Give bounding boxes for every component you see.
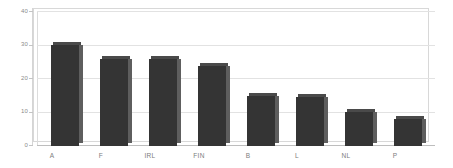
y-tick-label-30: 30 [4,41,28,48]
x-tick-label-F: F [81,152,121,160]
plot-area [33,8,435,148]
bar-top-A [53,42,81,45]
bar-side-FIN [226,66,230,143]
bar-chart: 40 30 20 10 0 [0,0,453,168]
bar-side-F [128,59,132,143]
bar-top-FIN [200,63,228,66]
bar-IRL[interactable] [149,59,177,146]
y-tick-label-10: 10 [4,108,28,115]
x-tick-label-P: P [375,152,415,160]
bar-top-L [298,94,326,97]
x-tick-label-NL: NL [326,152,366,160]
y-tick-label-20: 20 [4,75,28,82]
bar-P[interactable] [394,119,422,146]
y-tick-label-40: 40 [4,8,28,15]
bar-L[interactable] [296,97,324,146]
bar-side-IRL [177,59,181,143]
bar-top-B [249,93,277,96]
bar-side-B [275,96,279,143]
x-tick-label-L: L [277,152,317,160]
x-tick-label-B: B [228,152,268,160]
x-tick-label-FIN: FIN [179,152,219,160]
bar-NL[interactable] [345,112,373,146]
bar-F[interactable] [100,59,128,146]
bar-side-L [324,97,328,143]
bar-FIN[interactable] [198,66,226,146]
bar-top-NL [347,109,375,112]
bar-B[interactable] [247,96,275,146]
bar-side-NL [373,112,377,143]
y-tick-label-0: 0 [4,142,28,149]
bar-side-P [422,119,426,143]
x-tick-label-A: A [32,152,72,160]
bar-side-A [79,45,83,143]
bar-top-P [396,116,424,119]
y-axis-tick-labels: 40 30 20 10 0 [0,0,28,168]
x-tick-label-IRL: IRL [130,152,170,160]
bar-top-IRL [151,56,179,59]
bar-top-F [102,56,130,59]
bars-container [37,8,435,146]
bar-A[interactable] [51,45,79,146]
